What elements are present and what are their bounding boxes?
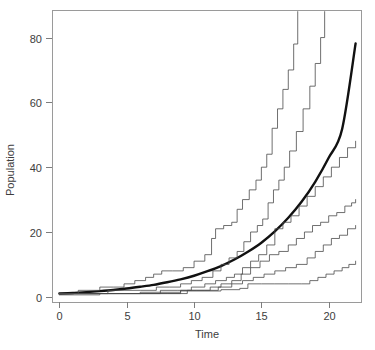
x-tick-label-15: 15 <box>255 310 267 322</box>
x-tick-label-20: 20 <box>323 310 335 322</box>
y-tick-label-0: 0 <box>36 292 42 304</box>
y-tick-label-40: 40 <box>30 162 42 174</box>
x-tick-label-10: 10 <box>188 310 200 322</box>
y-tick-label-60: 60 <box>30 97 42 109</box>
x-axis-title: Time <box>195 328 219 340</box>
y-tick-label-20: 20 <box>30 227 42 239</box>
y-tick-label-80: 80 <box>30 33 42 45</box>
x-tick-label-0: 0 <box>56 310 62 322</box>
y-axis-title: Population <box>4 144 16 196</box>
chart-figure: 05101520020406080 Time Population <box>0 0 375 350</box>
population-time-line-chart: 05101520020406080 Time Population <box>0 0 375 350</box>
x-tick-label-5: 5 <box>124 310 130 322</box>
